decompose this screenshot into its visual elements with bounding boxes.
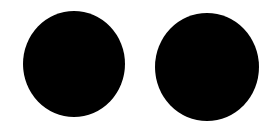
left-circle: [23, 11, 125, 117]
right-circle: [155, 13, 259, 121]
